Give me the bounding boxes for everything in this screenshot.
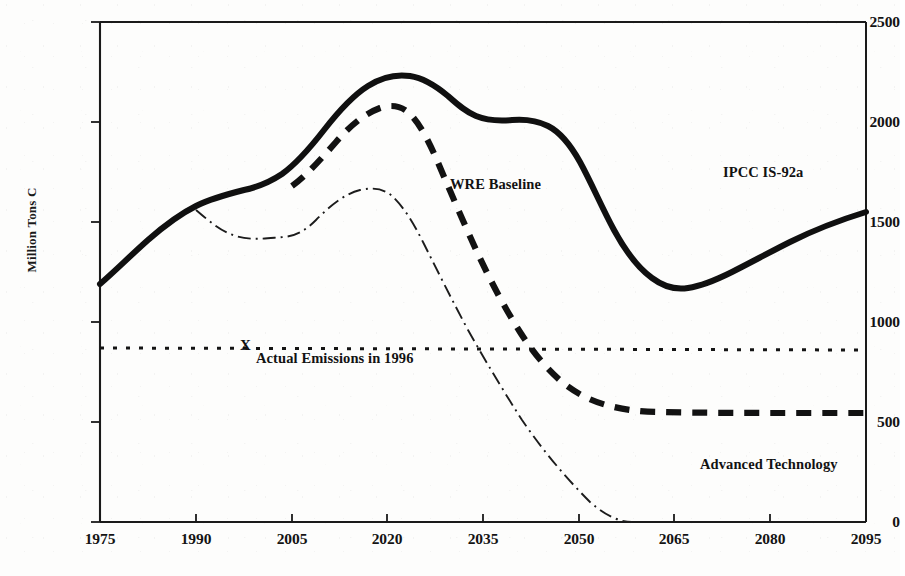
y-axis-ticks <box>91 22 100 522</box>
axis-frame <box>100 22 866 522</box>
series-label-ipcc-is92a: IPCC IS-92a <box>723 164 803 181</box>
series-label-advanced-technology: Advanced Technology <box>700 456 838 473</box>
series-actual-emissions-1996 <box>100 348 866 350</box>
series-label-wre-baseline: WRE Baseline <box>450 176 541 193</box>
series-label-actual-emissions: Actual Emissions in 1996 <box>256 350 414 367</box>
actual-emissions-x-marker: X <box>240 337 251 354</box>
x-axis-ticks <box>100 514 866 522</box>
